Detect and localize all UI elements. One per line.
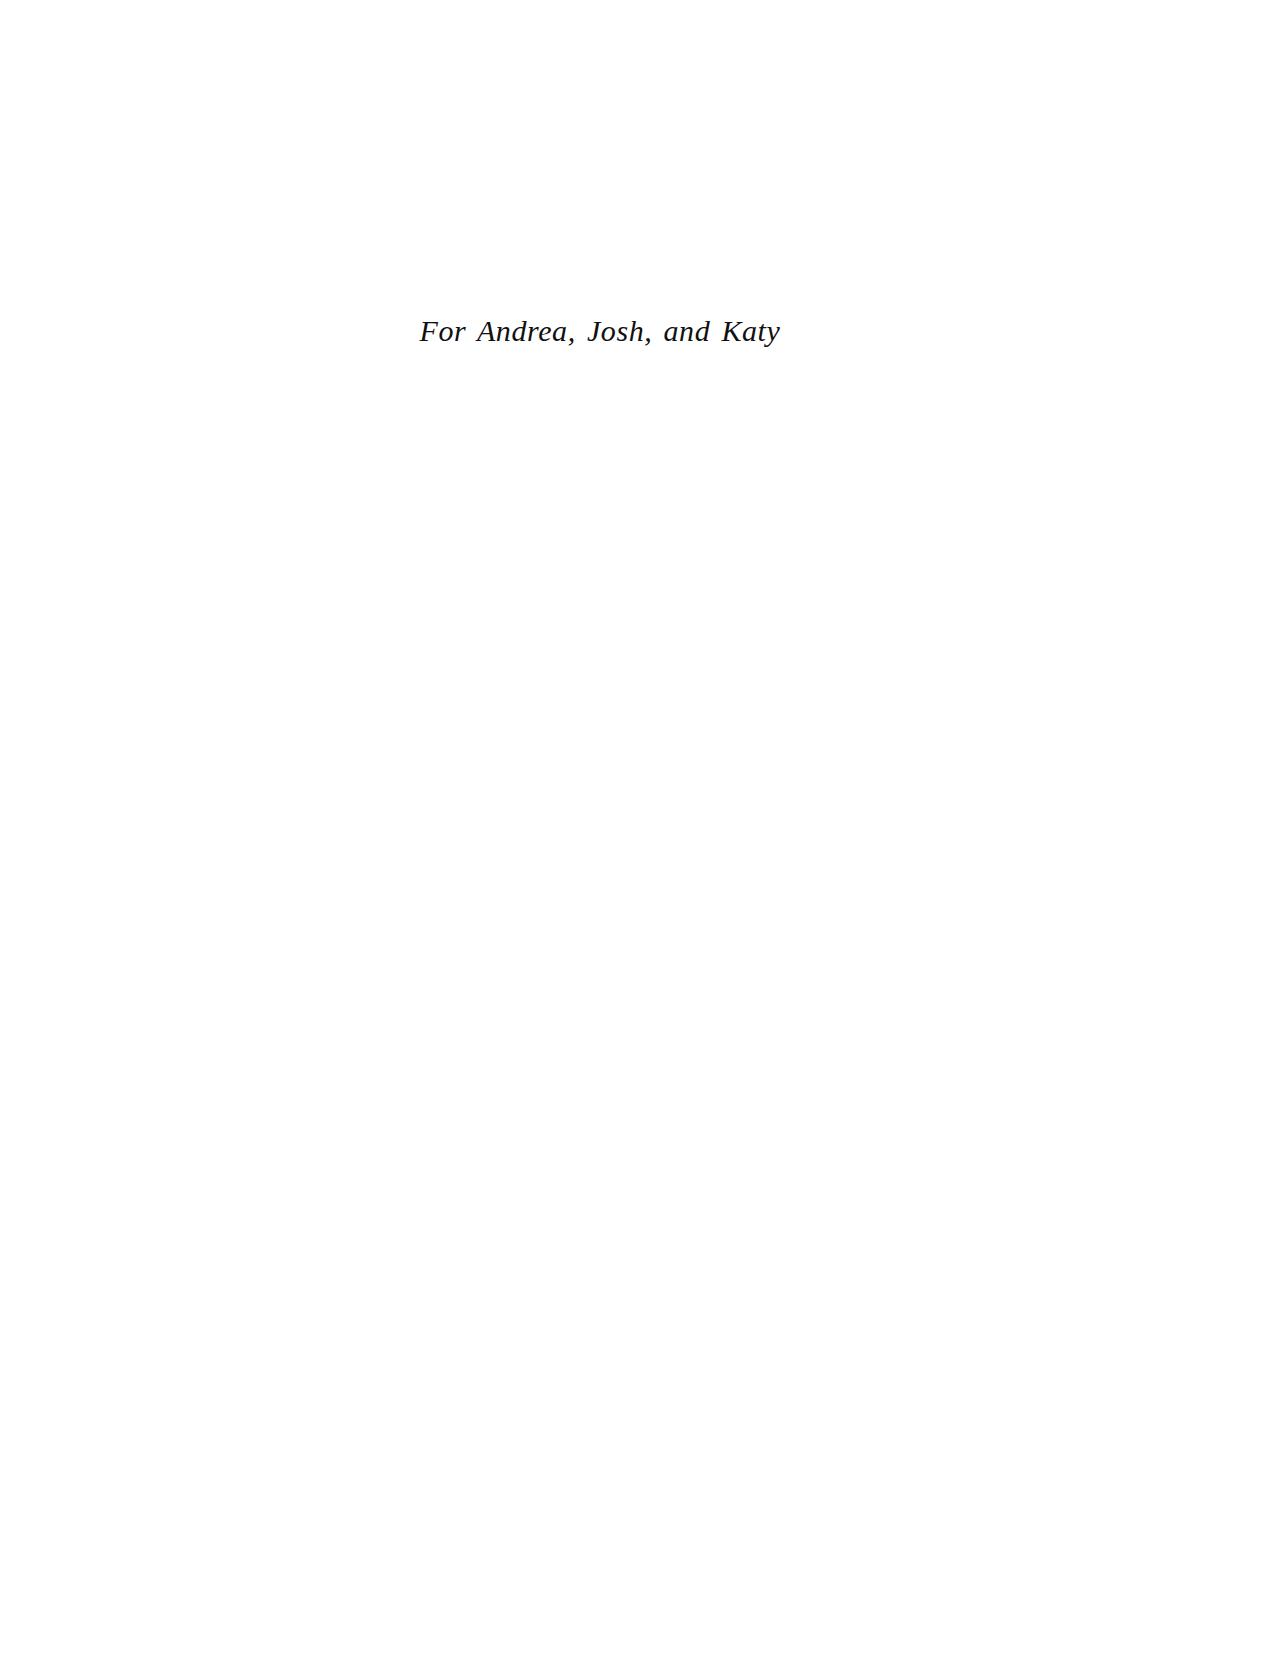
book-page: For Andrea, Josh, and Katy xyxy=(0,0,1270,1671)
dedication-block: For Andrea, Josh, and Katy xyxy=(0,312,1270,350)
dedication-text: For Andrea, Josh, and Katy xyxy=(420,312,781,350)
